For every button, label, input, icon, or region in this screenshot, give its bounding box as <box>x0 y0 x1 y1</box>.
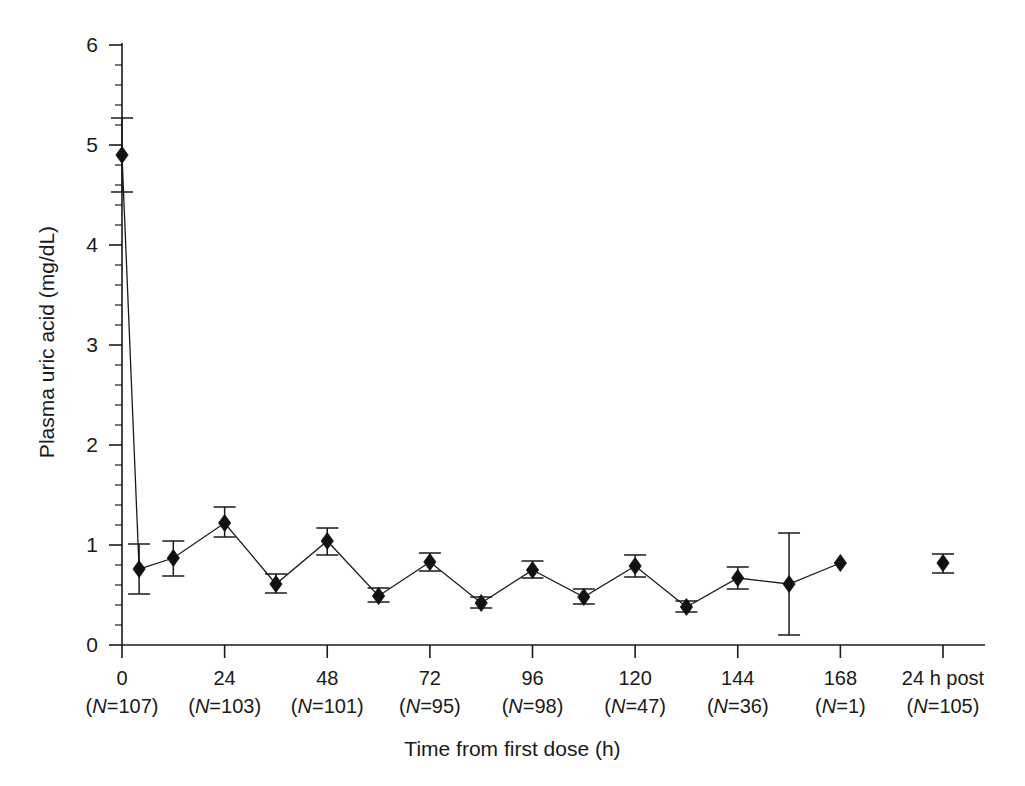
y-tick-label: 4 <box>58 234 98 255</box>
x-tick-label-text: 24 <box>214 667 236 689</box>
x-tick-label-text: 96 <box>521 667 543 689</box>
x-axis-title: Time from first dose (h) <box>0 737 1025 761</box>
data-point-marker <box>526 562 538 579</box>
x-tick-label: 24 h post(N=105) <box>902 667 984 718</box>
x-tick-label-text: 0 <box>116 667 127 689</box>
data-point-marker <box>783 576 795 593</box>
y-tick-label: 0 <box>58 634 98 655</box>
x-tick-label: 96(N=98) <box>502 667 564 718</box>
y-tick-label: 1 <box>58 534 98 555</box>
y-tick-label: 5 <box>58 134 98 155</box>
data-point-marker <box>937 555 949 572</box>
x-tick-sample-size: (N=95) <box>399 695 461 719</box>
data-point-marker <box>116 147 128 164</box>
x-tick-label: 72(N=95) <box>399 667 461 718</box>
y-axis-title: Plasma uric acid (mg/dL) <box>35 152 59 532</box>
x-tick-sample-size: (N=105) <box>902 695 984 719</box>
x-tick-label-text: 24 h post <box>902 667 984 689</box>
x-tick-label-text: 168 <box>824 667 857 689</box>
x-tick-sample-size: (N=98) <box>502 695 564 719</box>
y-tick-label: 2 <box>58 434 98 455</box>
x-tick-label-text: 144 <box>721 667 754 689</box>
data-point-marker <box>629 558 641 575</box>
x-tick-label: 120(N=47) <box>604 667 666 718</box>
series-line-0 <box>122 155 840 607</box>
x-tick-label-text: 72 <box>419 667 441 689</box>
x-tick-sample-size: (N=101) <box>291 695 364 719</box>
data-point-marker <box>321 533 333 550</box>
y-tick-label: 3 <box>58 334 98 355</box>
data-point-marker <box>424 554 436 571</box>
x-tick-label: 24(N=103) <box>188 667 261 718</box>
x-tick-label-text: 48 <box>316 667 338 689</box>
x-tick-sample-size: (N=36) <box>707 695 769 719</box>
x-tick-sample-size: (N=103) <box>188 695 261 719</box>
x-tick-label: 48(N=101) <box>291 667 364 718</box>
data-point-marker <box>133 561 145 578</box>
data-point-marker <box>834 555 846 572</box>
x-tick-label-text: 120 <box>618 667 651 689</box>
data-point-marker <box>167 550 179 567</box>
x-tick-sample-size: (N=47) <box>604 695 666 719</box>
x-tick-sample-size: (N=107) <box>86 695 159 719</box>
x-tick-label: 0(N=107) <box>86 667 159 718</box>
data-point-marker <box>578 589 590 606</box>
x-tick-sample-size: (N=1) <box>815 695 866 719</box>
chart-figure: 0123456 0(N=107)24(N=103)48(N=101)72(N=9… <box>0 0 1025 786</box>
x-tick-label: 168(N=1) <box>815 667 866 718</box>
data-point-marker <box>732 570 744 587</box>
x-tick-label: 144(N=36) <box>707 667 769 718</box>
y-tick-label: 6 <box>58 34 98 55</box>
